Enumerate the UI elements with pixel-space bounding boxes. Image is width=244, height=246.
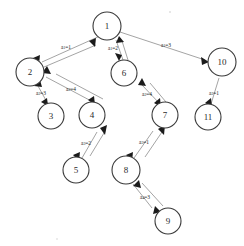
node-2[interactable]: 2 — [16, 58, 44, 86]
edge-line — [150, 83, 166, 102]
node-4[interactable]: 4 — [79, 102, 105, 128]
node-10[interactable]: 10 — [208, 48, 236, 76]
node-label: 1 — [105, 21, 110, 31]
node-label: 8 — [124, 165, 129, 175]
edge-label-3-to-2: a2=3 — [36, 90, 46, 96]
scan-speck — [169, 11, 171, 13]
edge-1-to-10: a1=3 — [120, 32, 209, 65]
arrowhead-icon — [138, 78, 146, 86]
edge-8-to-7: a3=1 — [126, 125, 165, 161]
node-label: 4 — [90, 110, 95, 120]
scan-speck — [56, 238, 57, 239]
node-label: 6 — [122, 68, 127, 78]
edge-label-2-to-1: a1=1 — [61, 44, 71, 50]
edge-label-7-to-6: a2=4 — [142, 91, 152, 97]
node-5[interactable]: 5 — [63, 157, 89, 183]
edge-label-1-to-10: a1=3 — [161, 42, 171, 48]
node-label: 7 — [163, 110, 168, 120]
node-label: 2 — [28, 67, 33, 77]
edge-label-5-to-4: a3=2 — [81, 140, 91, 146]
node-8[interactable]: 8 — [112, 156, 140, 184]
node-9[interactable]: 9 — [155, 208, 181, 234]
node-11[interactable]: 11 — [195, 104, 221, 130]
graph-svg: a1=1 a1=2 a1=3 a2=3 a — [0, 0, 244, 246]
node-label: 10 — [218, 57, 228, 67]
edge-label-6-to-1: a1=2 — [108, 45, 118, 51]
node-6[interactable]: 6 — [111, 60, 137, 86]
node-label: 9 — [166, 216, 171, 226]
edge-5-to-4: a3=2 — [73, 125, 107, 161]
edge-label-9-to-8: a4=3 — [140, 194, 150, 200]
edge-4-to-2: a2=4 — [42, 66, 103, 105]
arrowhead-icon — [116, 36, 124, 43]
edge-label-11-to-10: a2=1 — [209, 90, 219, 96]
edge-label-4-to-2: a2=4 — [66, 86, 76, 92]
edge-line — [90, 133, 104, 156]
node-1[interactable]: 1 — [93, 12, 121, 40]
edge-2-to-1: a1=1 — [33, 36, 100, 70]
node-label: 11 — [204, 112, 213, 122]
node-label: 3 — [49, 111, 54, 121]
edge-line — [122, 41, 128, 60]
edge-11-to-10: a2=1 — [205, 78, 219, 107]
edge-9-to-8: a4=3 — [133, 180, 163, 214]
node-label: 5 — [74, 165, 79, 175]
edge-label-8-to-7: a3=1 — [139, 139, 149, 145]
node-3[interactable]: 3 — [38, 103, 64, 129]
diagram-canvas: a1=1 a1=2 a1=3 a2=3 a — [0, 0, 244, 246]
node-7[interactable]: 7 — [152, 102, 178, 128]
